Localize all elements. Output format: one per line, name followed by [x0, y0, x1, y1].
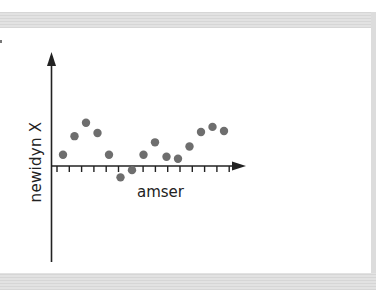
data-point — [151, 138, 159, 146]
y-axis-label: newidyn X — [27, 122, 45, 203]
x-axis-label: amser — [137, 183, 184, 201]
x-axis-ticks — [57, 166, 229, 172]
data-point — [162, 153, 170, 161]
data-points — [59, 119, 228, 182]
scatter-plot — [0, 0, 376, 290]
data-point — [174, 155, 182, 163]
data-point — [105, 151, 113, 159]
y-axis — [47, 52, 56, 262]
data-point — [139, 151, 147, 159]
data-point — [197, 128, 205, 136]
x-axis — [52, 162, 247, 173]
data-point — [59, 151, 67, 159]
data-point — [220, 127, 228, 135]
data-point — [82, 119, 90, 127]
data-point — [116, 173, 124, 181]
y-axis-arrow-icon — [47, 52, 56, 66]
data-point — [93, 129, 101, 137]
data-point — [185, 142, 193, 150]
data-point — [208, 123, 216, 131]
data-point — [70, 132, 78, 140]
data-point — [128, 166, 136, 174]
x-axis-arrow-icon — [232, 162, 246, 171]
